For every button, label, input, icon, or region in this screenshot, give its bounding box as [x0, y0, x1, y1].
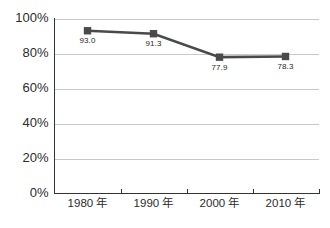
data-point-label: 77.9	[212, 63, 228, 72]
data-point-label: 78.3	[278, 62, 294, 71]
y-axis-tick-label: 60%	[22, 80, 48, 95]
y-axis-tick-label: 80%	[22, 45, 48, 60]
data-point-label: 91.3	[146, 39, 162, 48]
x-axis-tick-label: 2010 年	[266, 196, 306, 209]
chart-canvas: 0%20%40%60%80%100% 1980 年1990 年2000 年201…	[0, 0, 330, 228]
y-axis-tick-label: 20%	[22, 150, 48, 165]
x-axis-tick-label: 2000 年	[200, 196, 240, 209]
data-point-marker	[150, 30, 157, 37]
x-axis-tick-label: 1990 年	[134, 196, 174, 209]
line-chart: 0%20%40%60%80%100% 1980 年1990 年2000 年201…	[0, 0, 330, 228]
data-point-label: 93.0	[80, 36, 96, 45]
data-point-marker	[84, 27, 91, 34]
data-point-marker	[216, 53, 223, 60]
data-point-marker	[282, 53, 289, 60]
y-axis-tick-label: 40%	[22, 115, 48, 130]
y-axis-tick-label: 100%	[15, 10, 49, 25]
x-axis-tick-label: 1980 年	[68, 196, 108, 209]
y-axis-tick-label: 0%	[30, 185, 49, 200]
